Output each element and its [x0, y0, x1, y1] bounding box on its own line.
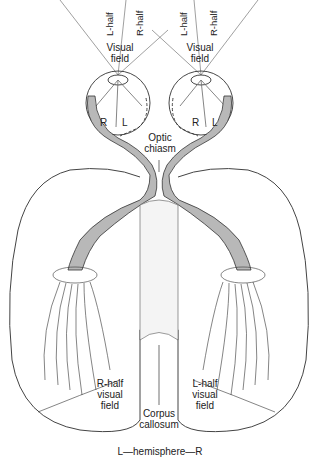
label-left-r-half: R-half [134, 11, 145, 36]
label-corpus-callosum: Corpus callosum [136, 408, 182, 430]
label-left-l-half: L-half [104, 12, 115, 36]
label-visual-field-right: Visual field [183, 42, 217, 64]
label-right-retina-r: R [192, 117, 199, 128]
label-left-retina-l: L [122, 117, 128, 128]
label-right-retina-l: L [212, 117, 218, 128]
label-hemispheres: L—hemisphere—R [105, 446, 215, 457]
label-optic-chiasm: Optic chiasm [142, 132, 178, 154]
label-r-half-visual-field: R-half visual field [92, 378, 128, 411]
corpus-callosum [140, 200, 178, 340]
visual-field-lines [60, 0, 258, 75]
label-l-half-visual-field: L-half visual field [187, 378, 223, 411]
label-visual-field-left: Visual field [103, 42, 137, 64]
visual-pathway-diagram [0, 0, 313, 461]
label-right-l-half: L-half [178, 12, 189, 36]
label-right-r-half: R-half [208, 11, 219, 36]
label-left-retina-r: R [100, 117, 107, 128]
